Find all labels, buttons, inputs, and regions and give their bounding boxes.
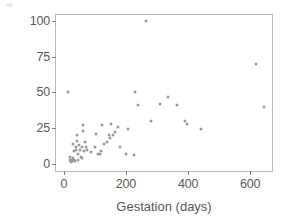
y-axis-tick (52, 57, 56, 58)
data-point (93, 145, 96, 148)
data-point (110, 122, 113, 125)
scatter-plot-figure: 02550751000200400600 Gestation (days) Li… (0, 0, 289, 223)
data-points-layer (56, 15, 272, 171)
data-point (73, 159, 76, 162)
data-point (75, 134, 78, 137)
data-point (78, 148, 81, 151)
y-axis-tick-label: 100 (30, 14, 50, 27)
y-axis-tick-label: 50 (36, 86, 50, 99)
data-point (77, 158, 80, 161)
x-axis-tick-label: 600 (240, 178, 260, 191)
y-axis-tick (52, 21, 56, 22)
y-axis-tick (52, 92, 56, 93)
data-point (263, 105, 266, 108)
data-point (118, 145, 121, 148)
data-point (83, 141, 86, 144)
x-axis-tick (250, 171, 251, 175)
data-point (80, 145, 83, 148)
data-point (82, 124, 85, 127)
data-point (185, 122, 188, 125)
data-point (86, 148, 89, 151)
data-point (76, 139, 79, 142)
data-point (95, 132, 98, 135)
data-point (134, 91, 137, 94)
data-point (100, 124, 103, 127)
data-point (112, 134, 115, 137)
data-point (166, 95, 169, 98)
data-point (106, 141, 109, 144)
data-point (109, 137, 112, 140)
data-point (100, 149, 103, 152)
y-axis-tick (52, 128, 56, 129)
x-axis-tick (126, 171, 127, 175)
data-point (199, 128, 202, 131)
x-axis-tick-label: 0 (60, 178, 67, 191)
y-axis-tick (52, 164, 56, 165)
data-point (99, 152, 102, 155)
data-point (82, 129, 85, 132)
data-point (117, 125, 120, 128)
x-axis-tick (64, 171, 65, 175)
x-axis-tick (188, 171, 189, 175)
data-point (124, 152, 127, 155)
data-point (132, 154, 135, 157)
data-point (67, 91, 70, 94)
y-axis-tick-label: 0 (43, 158, 50, 171)
data-point (255, 62, 258, 65)
x-axis-title: Gestation (days) (55, 200, 273, 213)
data-point (127, 128, 130, 131)
data-point (81, 157, 84, 160)
y-axis-tick-label: 25 (36, 122, 50, 135)
plot-area: 02550751000200400600 (55, 14, 273, 172)
data-point (114, 131, 117, 134)
x-axis-tick-label: 200 (116, 178, 136, 191)
data-point (102, 142, 105, 145)
data-point (90, 151, 93, 154)
x-axis-tick-label: 400 (178, 178, 198, 191)
scan-artifact (6, 3, 13, 7)
data-point (176, 104, 179, 107)
data-point (145, 19, 148, 22)
y-axis-tick-label: 75 (36, 50, 50, 63)
data-point (149, 119, 152, 122)
data-point (74, 148, 77, 151)
data-point (159, 102, 162, 105)
data-point (137, 104, 140, 107)
